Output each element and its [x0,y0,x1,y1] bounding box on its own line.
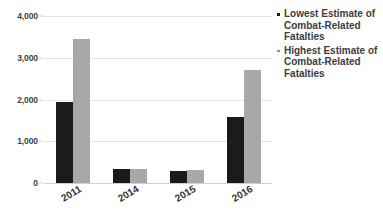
plot-area: 4,000 3,000 2,000 1,000 0 [44,16,272,183]
bar-2016-highest[interactable] [244,70,261,183]
y-tickmark-1000 [39,141,43,142]
bar-2016-lowest[interactable] [227,117,244,183]
bar-group-2014 [101,16,158,183]
bar-2014-highest[interactable] [130,169,147,183]
y-tickmark-3000 [39,57,43,58]
bar-group-2015 [158,16,215,183]
y-tickmark-2000 [39,99,43,100]
y-tickmark-4000 [39,16,43,17]
chart-legend: Lowest Estimate of Combat-Related Fatalt… [277,8,381,82]
bar-group-2016 [215,16,272,183]
legend-swatch-lowest-icon [277,13,280,16]
y-tick-label-0: 0 [33,178,38,188]
bar-groups [44,16,272,183]
y-tick-label-1000: 1,000 [17,136,38,146]
bar-chart: 4,000 3,000 2,000 1,000 0 [0,0,383,219]
legend-label-lowest: Lowest Estimate of Combat-Related Fatalt… [284,8,381,43]
y-tickmark-0 [39,183,43,184]
bar-2015-highest[interactable] [187,170,204,183]
x-tick-label-2016: 2016 [229,183,254,204]
legend-swatch-highest-icon [277,50,280,53]
legend-entry-highest[interactable]: Highest Estimate of Combat-Related Fatal… [277,45,381,80]
bar-2015-lowest[interactable] [170,171,187,183]
bar-2014-lowest[interactable] [113,169,130,183]
y-tick-label-2000: 2,000 [17,95,38,105]
x-axis-labels: 2011 2014 2015 2016 [44,184,272,219]
legend-label-highest: Highest Estimate of Combat-Related Fatal… [284,45,381,80]
legend-entry-lowest[interactable]: Lowest Estimate of Combat-Related Fatalt… [277,8,381,43]
x-tick-label-2014: 2014 [115,183,140,204]
bar-2011-highest[interactable] [73,39,90,183]
x-tick-label-2011: 2011 [59,183,83,204]
bar-2011-lowest[interactable] [56,102,73,183]
x-tick-label-2015: 2015 [172,183,197,204]
y-tick-label-3000: 3,000 [17,53,38,63]
bar-group-2011 [44,16,101,183]
y-tick-label-4000: 4,000 [17,11,38,21]
